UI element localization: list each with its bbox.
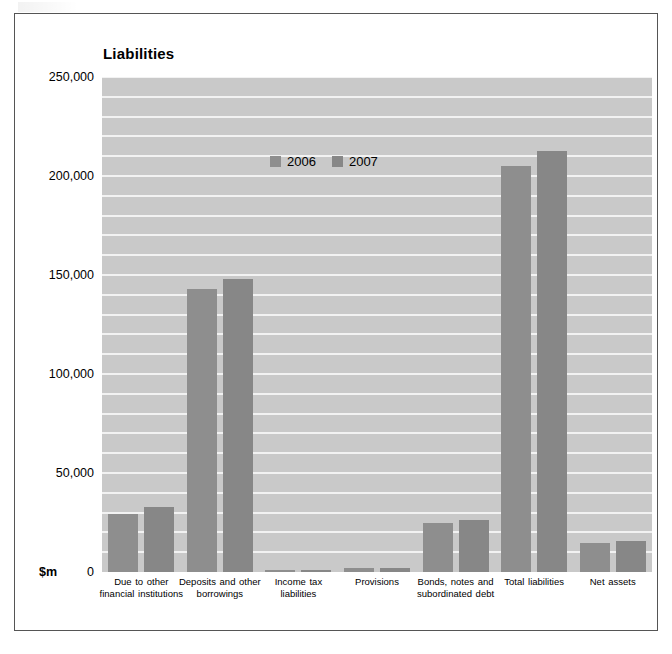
- y-axis-unit-label: $m: [39, 565, 57, 579]
- bar-2006: [344, 568, 374, 572]
- legend-swatch-icon: [332, 156, 343, 167]
- y-tick-label: 150,000: [49, 268, 94, 282]
- legend-item: 2007: [332, 154, 378, 169]
- bar-group: [338, 77, 417, 572]
- x-axis-category-label: Provisions: [332, 576, 423, 588]
- y-tick-label: 0: [87, 565, 94, 579]
- x-axis-category-label: Bonds, notes andsubordinated debt: [410, 576, 501, 600]
- y-tick-label: 100,000: [49, 367, 94, 381]
- x-axis-category-label: Income taxliabilities: [253, 576, 344, 600]
- bar-2007: [537, 151, 567, 572]
- bar-2006: [265, 570, 295, 572]
- bar-2007: [616, 541, 646, 572]
- bar-2006: [580, 543, 610, 572]
- bar-2006: [108, 514, 138, 572]
- bar-group: [181, 77, 260, 572]
- x-axis-category-label: Due to otherfinancial institutions: [96, 576, 187, 600]
- legend-label: 2007: [349, 154, 378, 169]
- y-axis: 050,000100,000150,000200,000250,000$m: [15, 14, 102, 630]
- y-tick-label: 50,000: [56, 466, 94, 480]
- bar-2007: [144, 507, 174, 572]
- y-tick-label: 250,000: [49, 70, 94, 84]
- x-axis-category-label: Total liabilities: [489, 576, 580, 588]
- figure-page: Liabilities 050,000100,000150,000200,000…: [0, 0, 672, 654]
- bar-2007: [380, 568, 410, 572]
- x-axis-category-label: Net assets: [567, 576, 658, 588]
- chart-legend: 20062007: [270, 154, 378, 169]
- x-axis-category-label: Deposits and otherborrowings: [175, 576, 266, 600]
- bar-group: [102, 77, 181, 572]
- bar-group: [573, 77, 652, 572]
- bar-2006: [501, 166, 531, 572]
- page-artifact: [18, 2, 78, 12]
- legend-swatch-icon: [270, 156, 281, 167]
- legend-label: 2006: [287, 154, 316, 169]
- x-axis-labels: Due to otherfinancial institutionsDeposi…: [102, 576, 652, 622]
- chart-title: Liabilities: [103, 45, 174, 62]
- bar-2006: [423, 523, 453, 573]
- bar-group: [416, 77, 495, 572]
- bar-2006: [187, 289, 217, 572]
- y-tick-label: 200,000: [49, 169, 94, 183]
- bar-2007: [223, 279, 253, 572]
- bar-group: [495, 77, 574, 572]
- plot-area: [102, 77, 652, 572]
- bar-2007: [301, 570, 331, 572]
- bar-group: [259, 77, 338, 572]
- bars-layer: [102, 77, 652, 572]
- bar-2007: [459, 520, 489, 572]
- chart-frame: Liabilities 050,000100,000150,000200,000…: [14, 13, 658, 631]
- legend-item: 2006: [270, 154, 316, 169]
